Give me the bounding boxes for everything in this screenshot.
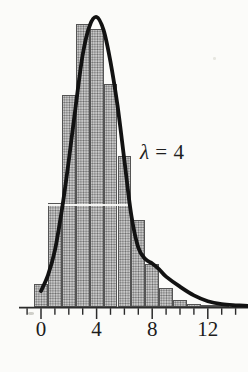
lambda-symbol: λ bbox=[140, 140, 150, 164]
x-axis-tick-label: 0 bbox=[24, 318, 58, 340]
x-axis-tick-label: 12 bbox=[191, 318, 225, 340]
x-axis-tick-label: 8 bbox=[135, 318, 169, 340]
lambda-annotation: λ = 4 bbox=[140, 141, 184, 164]
lambda-equation-rest: = 4 bbox=[150, 140, 185, 164]
x-axis-tick-label: 4 bbox=[80, 318, 114, 340]
poisson-histogram-figure: 04812 λ = 4 bbox=[0, 0, 248, 372]
